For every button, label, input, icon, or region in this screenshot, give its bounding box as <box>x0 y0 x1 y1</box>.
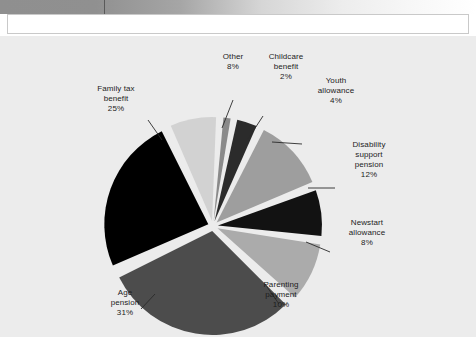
pie-label-parenting-payment: Parenting payment 10% <box>250 270 312 320</box>
pie-label-other-pct: 8% <box>207 62 259 72</box>
pie-label-family-tax-benefit-text: Family tax benefit <box>97 84 134 103</box>
pie-label-youth-allowance-text: Youth allowance <box>318 76 354 95</box>
pie-label-age-pension-text: Age pension <box>111 288 140 307</box>
pie-label-other-text: Other <box>223 52 244 61</box>
pie-label-newstart-allowance-pct: 8% <box>336 238 398 248</box>
pie-label-disability-support-pension-pct: 12% <box>338 170 400 180</box>
chart-canvas: Family tax benefit 25% Other 8% Childcar… <box>0 36 476 337</box>
pie-label-other: Other 8% <box>207 42 259 82</box>
pie-label-age-pension-pct: 31% <box>94 308 156 318</box>
pie-label-newstart-allowance-text: Newstart allowance <box>349 218 385 237</box>
pie-label-disability-support-pension: Disability support pension 12% <box>338 130 400 190</box>
pie-label-family-tax-benefit-pct: 25% <box>84 104 148 114</box>
pie-label-disability-support-pension-text: Disability support pension <box>352 140 385 169</box>
pie-label-parenting-payment-text: Parenting payment <box>263 280 298 299</box>
pie-label-age-pension: Age pension 31% <box>94 278 156 328</box>
pie-label-family-tax-benefit: Family tax benefit 25% <box>84 74 148 124</box>
pie-label-newstart-allowance: Newstart allowance 8% <box>336 208 398 258</box>
pie-label-childcare-benefit-text: Childcare benefit <box>269 52 304 71</box>
pie-label-youth-allowance: Youth allowance 4% <box>305 66 367 116</box>
top-gradient-bar <box>0 0 476 14</box>
header-panel <box>7 14 469 34</box>
pie-label-youth-allowance-pct: 4% <box>305 96 367 106</box>
pie-label-parenting-payment-pct: 10% <box>250 300 312 310</box>
